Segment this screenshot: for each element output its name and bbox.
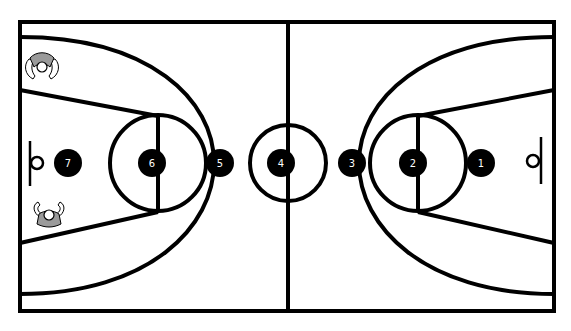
position-marker-4: 4 [267, 149, 295, 177]
position-marker-3: 3 [338, 149, 366, 177]
right-lane-bottom [418, 212, 554, 243]
right-lane-top [418, 90, 554, 116]
svg-text:3: 3 [349, 157, 355, 170]
player-icon [34, 202, 64, 227]
svg-text:2: 2 [410, 157, 416, 170]
svg-text:7: 7 [65, 157, 71, 170]
svg-text:4: 4 [278, 157, 284, 170]
position-marker-5: 5 [206, 149, 234, 177]
left-lane-top [20, 90, 158, 116]
player-icon [26, 53, 59, 79]
right-three-point-arc [359, 37, 554, 294]
right-rim [527, 155, 539, 167]
svg-text:6: 6 [149, 157, 155, 170]
left-rim [31, 157, 43, 169]
position-marker-2: 2 [399, 149, 427, 177]
position-marker-7: 7 [54, 149, 82, 177]
svg-text:5: 5 [217, 157, 223, 170]
position-marker-6: 6 [138, 149, 166, 177]
position-marker-1: 1 [467, 149, 495, 177]
right-half [359, 37, 554, 294]
svg-text:1: 1 [478, 157, 484, 170]
basketball-court: 1 2 3 4 5 6 7 [0, 0, 571, 331]
